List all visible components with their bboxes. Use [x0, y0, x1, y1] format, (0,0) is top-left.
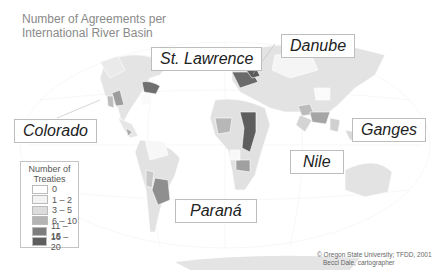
label-colorado: Colorado — [14, 119, 97, 143]
label-parana: Paraná — [175, 199, 257, 223]
legend-swatch — [32, 195, 48, 204]
credit: © Oregon State University; TFDD, 2001 Be… — [317, 251, 432, 267]
legend-swatch — [32, 237, 47, 246]
label-danube: Danube — [281, 34, 355, 58]
label-st-lawrence: St. Lawrence — [151, 47, 262, 71]
legend-item: 0 — [32, 184, 78, 195]
africa — [210, 99, 270, 190]
map-title: Number of Agreements per International R… — [22, 12, 166, 40]
australia — [345, 163, 392, 197]
legend: Number of Treaties 0 1 – 2 3 – 5 6 – 10 … — [20, 161, 79, 248]
legend-item: 1 – 2 — [32, 195, 78, 206]
legend-swatch — [32, 216, 48, 225]
legend-swatch — [32, 206, 48, 215]
legend-swatch — [32, 227, 47, 236]
legend-item: 3 – 5 — [32, 205, 78, 216]
legend-swatch — [32, 185, 48, 194]
south-america — [135, 140, 180, 232]
label-ganges: Ganges — [352, 118, 426, 142]
legend-item: 16 – 20 — [32, 237, 78, 248]
legend-title: Number of Treaties — [21, 164, 78, 184]
label-nile: Nile — [290, 150, 344, 174]
